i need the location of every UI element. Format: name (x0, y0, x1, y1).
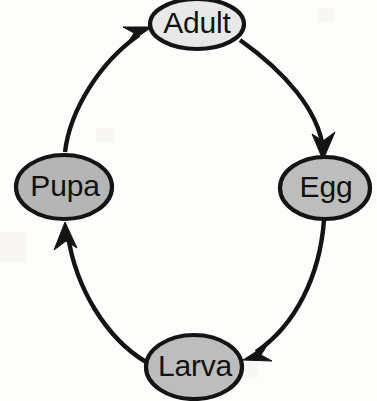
adult-label: Adult (163, 6, 231, 39)
pupa-to-adult-curve (65, 35, 139, 152)
pupa-label: Pupa (30, 169, 100, 202)
edge-pupa-to-adult (65, 27, 152, 152)
node-adult[interactable]: Adult (150, 0, 244, 49)
egg-to-larva-curve (256, 220, 324, 352)
edge-adult-to-egg (240, 40, 335, 160)
larva-to-pupa-curve (68, 236, 146, 362)
egg-to-larva-arrowhead (243, 344, 272, 361)
node-egg[interactable]: Egg (280, 157, 370, 219)
cycle-diagram-canvas: Adult Egg Larva Pupa (0, 0, 377, 401)
node-larva[interactable]: Larva (146, 335, 242, 399)
life-cycle-diagram: Adult Egg Larva Pupa (0, 0, 377, 401)
edge-larva-to-pupa (54, 222, 146, 362)
larva-label: Larva (158, 349, 233, 382)
node-pupa[interactable]: Pupa (16, 155, 112, 219)
larva-to-pupa-arrowhead (54, 222, 77, 250)
egg-label: Egg (300, 170, 353, 203)
adult-to-egg-curve (240, 40, 323, 148)
edge-egg-to-larva (243, 220, 324, 361)
